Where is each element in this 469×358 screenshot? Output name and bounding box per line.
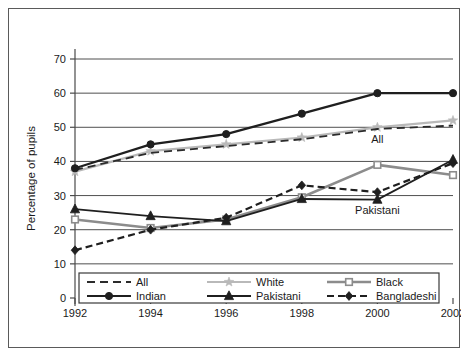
y-tick-label: 10 <box>54 258 66 270</box>
x-tick-label: 1998 <box>290 307 314 319</box>
data-point-marker <box>223 131 230 138</box>
y-axis-title: Percentage of pupils <box>25 126 37 231</box>
series-line-black <box>75 165 453 228</box>
series-all <box>75 126 453 170</box>
y-tick-label: 50 <box>54 121 66 133</box>
data-point-marker <box>147 141 154 148</box>
data-point-marker <box>105 292 112 299</box>
annotation-all: All <box>371 133 383 145</box>
legend-label: Black <box>376 276 403 288</box>
data-point-marker <box>448 115 458 124</box>
x-tick-label: 2000 <box>365 307 389 319</box>
data-point-marker <box>374 162 381 169</box>
data-point-marker <box>346 279 353 286</box>
data-point-marker <box>72 216 79 223</box>
y-tick-label: 30 <box>54 190 66 202</box>
chart-canvas: 010203040506070 199219941996199820002002… <box>9 9 461 349</box>
data-point-marker <box>374 90 381 97</box>
annotation-pakistani: Pakistani <box>355 204 400 216</box>
data-point-marker <box>71 165 78 172</box>
line-chart: 010203040506070 199219941996199820002002… <box>9 9 461 349</box>
data-point-marker <box>450 172 457 179</box>
data-point-marker <box>298 181 306 190</box>
data-point-marker <box>298 110 305 117</box>
legend-label: All <box>136 276 148 288</box>
legend-label: Pakistani <box>256 290 301 302</box>
data-point-marker <box>71 246 79 255</box>
y-tick-label: 60 <box>54 87 66 99</box>
legend-label: White <box>256 276 284 288</box>
chart-legend: AllWhiteBlackIndianPakistaniBangladeshi <box>79 273 439 303</box>
chart-annotations: AllPakistani <box>355 133 400 216</box>
y-tick-label: 70 <box>54 53 66 65</box>
y-tick-label: 40 <box>54 155 66 167</box>
x-tick-label: 2002 <box>441 307 461 319</box>
data-point-marker <box>448 155 457 164</box>
series-indian <box>71 90 456 172</box>
y-axis-ticks: 010203040506070 <box>54 53 75 304</box>
x-tick-label: 1992 <box>63 307 87 319</box>
series-line-white <box>75 120 453 171</box>
legend-label: Bangladeshi <box>376 290 437 302</box>
series-line-all <box>75 126 453 170</box>
data-point-marker <box>449 90 456 97</box>
legend-label: Indian <box>136 290 166 302</box>
gridlines-group <box>75 59 453 264</box>
y-tick-label: 20 <box>54 224 66 236</box>
figure-frame: 010203040506070 199219941996199820002002… <box>8 8 460 348</box>
series-black <box>72 162 457 232</box>
y-tick-label: 0 <box>60 292 66 304</box>
data-point-marker <box>70 204 79 213</box>
x-tick-label: 1996 <box>214 307 238 319</box>
x-tick-label: 1994 <box>138 307 162 319</box>
